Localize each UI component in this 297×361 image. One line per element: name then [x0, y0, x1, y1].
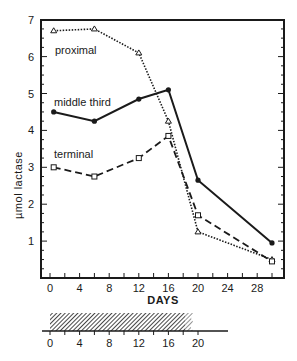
open-square-marker	[270, 259, 275, 264]
hatched-bar-fade	[185, 313, 193, 331]
y-tick-label: 1	[28, 235, 34, 247]
y-tick-label: 4	[28, 124, 34, 136]
series-layer	[51, 26, 275, 264]
y-tick-label: 6	[28, 51, 34, 63]
filled-circle-marker	[166, 87, 171, 92]
series-label-proximal: proximal	[55, 44, 97, 56]
open-square-marker	[166, 133, 171, 138]
x-axis-tick-labels: 0481216202428	[47, 282, 263, 294]
timeline-tick-label: 16	[162, 337, 174, 349]
x-tick-label: 0	[47, 282, 53, 294]
triangle-marker	[51, 28, 57, 33]
triangle-marker	[165, 118, 171, 123]
y-tick-label: 2	[28, 198, 34, 210]
filled-circle-marker	[195, 178, 200, 183]
filled-circle-marker	[92, 119, 97, 124]
x-tick-label: 28	[251, 282, 263, 294]
y-axis-title: µmol lactase	[12, 151, 24, 219]
timeline-tick-labels: 048121620	[47, 337, 204, 349]
lactase-chart: 1234567 0481216202428 proximal middle th…	[0, 0, 297, 361]
x-axis-title: DAYS	[147, 294, 179, 306]
timeline-tick-label: 0	[47, 337, 53, 349]
filled-circle-marker	[136, 96, 141, 101]
series-line-middle-third	[54, 90, 272, 243]
open-square-marker	[196, 213, 201, 218]
triangle-marker	[195, 229, 201, 234]
triangle-marker	[91, 26, 97, 31]
triangle-marker	[136, 50, 142, 55]
timeline-tick-label: 20	[192, 337, 204, 349]
x-tick-label: 4	[77, 282, 83, 294]
filled-circle-marker	[51, 109, 56, 114]
timeline-tick-label: 8	[106, 337, 112, 349]
y-tick-label: 3	[28, 161, 34, 173]
x-tick-label: 20	[192, 282, 204, 294]
filled-circle-marker	[269, 240, 274, 245]
treatment-timeline: 048121620	[42, 313, 228, 349]
x-tick-label: 16	[162, 282, 174, 294]
open-square-marker	[136, 156, 141, 161]
series-label-middle-third: middle third	[54, 96, 111, 108]
y-axis-tick-labels: 1234567	[28, 14, 34, 247]
x-tick-label: 12	[133, 282, 145, 294]
hatched-treatment-bar	[50, 313, 185, 331]
x-tick-label: 8	[106, 282, 112, 294]
open-square-marker	[51, 165, 56, 170]
open-square-marker	[92, 174, 97, 179]
y-tick-label: 5	[28, 88, 34, 100]
y-tick-label: 7	[28, 14, 34, 26]
x-tick-label: 24	[221, 282, 233, 294]
timeline-tick-label: 4	[77, 337, 83, 349]
series-label-terminal: terminal	[54, 148, 93, 160]
series-line-proximal	[54, 29, 272, 260]
timeline-tick-label: 12	[133, 337, 145, 349]
